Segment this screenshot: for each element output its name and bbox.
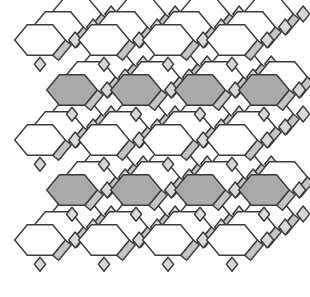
lattice-svg [0,0,310,297]
square-face [34,57,45,71]
lattice-illustration [0,0,310,297]
square-face [162,257,173,271]
square-face [34,157,45,171]
square-face [226,257,237,271]
square-face [98,257,109,271]
square-face [34,257,45,271]
